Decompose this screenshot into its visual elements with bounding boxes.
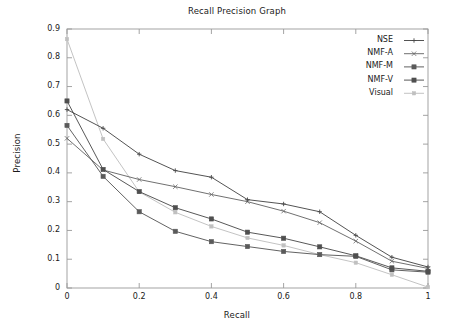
marker-dot-icon <box>246 236 249 239</box>
marker-square-icon <box>354 254 358 258</box>
marker-dot-icon <box>354 261 357 264</box>
marker-filled-square-icon <box>245 244 249 248</box>
marker-dot-icon <box>65 37 68 40</box>
marker-square-icon <box>282 236 286 240</box>
plot-area <box>0 0 474 332</box>
x-axis-label: Recall <box>0 310 474 320</box>
marker-dot-icon <box>426 285 429 288</box>
x-tick-label: 0 <box>47 292 87 301</box>
recall-precision-chart: Recall Precision Graph Precision Recall … <box>0 0 474 332</box>
legend-label-nmf-m: NMF-M <box>335 61 393 70</box>
marker-filled-square-icon <box>137 210 141 214</box>
marker-square-icon <box>173 206 177 210</box>
x-tick-label: 0.6 <box>264 292 304 301</box>
x-tick-label: 0.4 <box>191 292 231 301</box>
y-tick-label: 0.7 <box>26 81 60 90</box>
marker-dot-icon <box>282 244 285 247</box>
y-tick-label: 0 <box>26 283 60 292</box>
marker-square-icon <box>390 266 394 270</box>
marker-dot-icon <box>174 211 177 214</box>
legend-label-nmf-v: NMF-V <box>335 75 393 84</box>
marker-filled-square-icon <box>173 229 177 233</box>
marker-filled-square-icon <box>209 240 213 244</box>
y-tick-label: 0.1 <box>26 254 60 263</box>
legend-sample-nmf-v <box>404 78 424 82</box>
marker-filled-square-icon <box>412 65 416 69</box>
marker-square-icon <box>426 269 430 273</box>
marker-square-icon <box>65 99 69 103</box>
x-tick-label: 0.8 <box>336 292 376 301</box>
marker-dot-icon <box>390 273 393 276</box>
series-line <box>67 110 428 267</box>
legend-sample-visual <box>404 92 424 95</box>
x-tick-label: 1 <box>408 292 448 301</box>
marker-filled-square-icon <box>318 253 322 257</box>
y-tick-label: 0.2 <box>26 225 60 234</box>
legend-sample-nse <box>404 38 424 42</box>
series-nmf-a <box>65 136 430 270</box>
legend-label-nse: NSE <box>335 35 393 44</box>
marker-dot-icon <box>412 92 415 95</box>
y-tick-label: 0.4 <box>26 167 60 176</box>
y-tick-label: 0.6 <box>26 110 60 119</box>
marker-square-icon <box>209 217 213 221</box>
legend-label-visual: Visual <box>335 88 393 97</box>
marker-filled-square-icon <box>65 123 69 127</box>
y-tick-label: 0.3 <box>26 196 60 205</box>
legend-sample-nmf-m <box>404 65 424 69</box>
x-tick-label: 0.2 <box>119 292 159 301</box>
y-tick-label: 0.9 <box>26 24 60 33</box>
legend-label-nmf-a: NMF-A <box>335 48 393 57</box>
y-tick-label: 0.8 <box>26 52 60 61</box>
y-tick-label: 0.5 <box>26 139 60 148</box>
chart-title: Recall Precision Graph <box>0 6 474 16</box>
marker-square-icon <box>101 167 105 171</box>
y-axis-label: Precision <box>12 113 22 193</box>
marker-dot-icon <box>210 225 213 228</box>
marker-filled-square-icon <box>101 174 105 178</box>
marker-square-icon <box>137 189 141 193</box>
marker-filled-square-icon <box>282 249 286 253</box>
legend-sample-nmf-a <box>404 52 424 56</box>
marker-dot-icon <box>101 137 104 140</box>
marker-square-icon <box>318 245 322 249</box>
marker-square-icon <box>412 78 416 82</box>
marker-square-icon <box>245 230 249 234</box>
